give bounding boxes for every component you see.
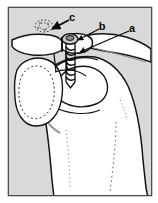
label-a: a [129, 22, 136, 34]
figure-panel: c b a [0, 0, 158, 203]
screw-head-recess [66, 36, 74, 41]
clavicle [12, 34, 62, 55]
anatomical-illustration: c b a [0, 0, 158, 203]
figure-content: c b a [9, 8, 151, 198]
label-c: c [69, 11, 75, 23]
label-b: b [99, 20, 106, 32]
